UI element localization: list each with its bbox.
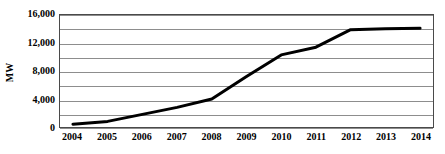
series-line-installed-capacity xyxy=(73,28,420,124)
series-line-chart xyxy=(60,15,433,127)
x-axis-tick-label: 2012 xyxy=(341,131,361,143)
x-axis-tick-label: 2008 xyxy=(202,131,222,143)
x-axis-tick-label: 2009 xyxy=(237,131,257,143)
plot-area xyxy=(59,14,434,128)
y-axis-tick-labels: 16,00012,0008,0004,0000 xyxy=(6,0,55,154)
y-axis-tick-label: 4,000 xyxy=(6,95,55,105)
x-axis-tick-label: 2011 xyxy=(307,131,326,143)
y-axis-tick-label: 8,000 xyxy=(6,66,55,76)
x-axis-tick-label: 2013 xyxy=(376,131,396,143)
x-axis-tick-label: 2010 xyxy=(271,131,291,143)
y-axis-tick-label: 16,000 xyxy=(6,9,55,19)
y-axis-tick-label: 0 xyxy=(6,123,55,133)
x-axis-tick-label: 2006 xyxy=(132,131,152,143)
x-axis-tick-labels: 2004200520062007200820092010201120122013… xyxy=(59,131,434,151)
x-axis-tick-label: 2007 xyxy=(167,131,187,143)
x-axis-tick-label: 2014 xyxy=(411,131,431,143)
chart-screenshot: MW 16,00012,0008,0004,0000 2004200520062… xyxy=(0,0,445,154)
y-axis-tick-label: 12,000 xyxy=(6,38,55,48)
x-axis-tick-label: 2004 xyxy=(62,131,82,143)
gridline xyxy=(60,128,433,129)
x-axis-tick-label: 2005 xyxy=(97,131,117,143)
